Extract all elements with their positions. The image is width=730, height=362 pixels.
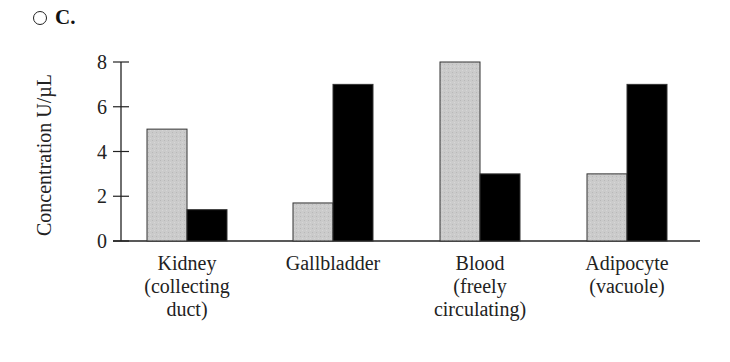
x-category-label: Kidney(collectingduct) — [112, 252, 262, 321]
bar-black — [480, 174, 520, 241]
bar-black — [333, 84, 373, 241]
y-axis-label: Concentration U/µL — [33, 74, 56, 236]
bar-black — [187, 210, 227, 241]
svg-text:Concentration U/µL: Concentration U/µL — [33, 74, 56, 236]
bar-gray — [440, 62, 480, 241]
bar-black — [627, 84, 667, 241]
x-category-label: Adipocyte(vacuole) — [552, 252, 702, 298]
bars — [147, 62, 667, 241]
bar-gray — [587, 174, 627, 241]
bar-gray — [293, 203, 333, 241]
y-tick-label: 0 — [97, 230, 107, 252]
y-tick-label: 8 — [97, 51, 107, 73]
x-category-label: Blood(freelycirculating) — [405, 252, 555, 321]
y-tick-label: 6 — [97, 96, 107, 118]
y-tick-label: 4 — [97, 141, 107, 163]
bar-gray — [147, 129, 187, 241]
bar-chart: Concentration U/µL 02468 — [0, 0, 730, 362]
x-category-label: Gallbladder — [258, 252, 408, 275]
y-tick-label: 2 — [97, 185, 107, 207]
